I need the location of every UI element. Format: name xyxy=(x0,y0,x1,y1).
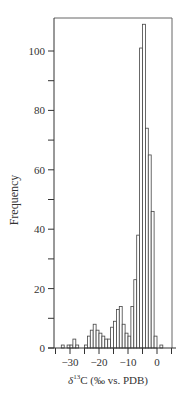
y-axis-label: Frequency xyxy=(7,175,21,226)
histogram-bar xyxy=(111,327,114,348)
histogram-bar xyxy=(134,280,137,348)
histogram-bar xyxy=(99,333,102,348)
y-tick-label: 80 xyxy=(34,104,46,116)
histogram-bar xyxy=(131,306,134,348)
x-axis-label: δ13C (‰ vs. PDB) xyxy=(68,373,148,387)
x-tick-label: −20 xyxy=(90,356,108,368)
histogram-bar xyxy=(90,330,93,348)
y-tick-label: 20 xyxy=(34,283,46,295)
histogram-bar xyxy=(143,24,146,348)
histogram-bar xyxy=(116,309,119,348)
histogram-bar xyxy=(148,155,151,348)
histogram-bar xyxy=(73,339,76,348)
y-tick-label: 40 xyxy=(34,223,46,235)
y-axis: 020406080100 xyxy=(29,18,55,354)
histogram-bar xyxy=(151,211,154,348)
histogram-bar xyxy=(140,48,143,348)
histogram-bar xyxy=(93,324,96,348)
histogram-bar xyxy=(122,324,125,348)
histogram-bars xyxy=(61,24,162,348)
histogram-bar xyxy=(102,336,105,348)
histogram-bar xyxy=(108,339,111,348)
histogram-bar xyxy=(119,306,122,348)
histogram-bar xyxy=(114,321,117,348)
histogram-chart: 020406080100 −30−20−100 Frequency δ13C (… xyxy=(0,0,180,405)
histogram-bar xyxy=(87,336,90,348)
x-tick-label: −30 xyxy=(61,356,79,368)
x-tick-label: −10 xyxy=(119,356,137,368)
x-label-rest: C (‰ vs. PDB) xyxy=(80,374,148,387)
y-tick-label: 60 xyxy=(34,164,46,176)
histogram-bar xyxy=(128,336,131,348)
histogram-bar xyxy=(105,339,108,348)
y-tick-label: 100 xyxy=(29,45,46,57)
x-tick-label: 0 xyxy=(154,356,160,368)
histogram-bar xyxy=(125,333,128,348)
histogram-bar xyxy=(96,330,99,348)
x-axis: −30−20−100 xyxy=(48,348,176,368)
histogram-bar xyxy=(137,235,140,348)
histogram-bar xyxy=(154,336,157,348)
histogram-bar xyxy=(145,128,148,348)
y-tick-label: 0 xyxy=(40,342,46,354)
